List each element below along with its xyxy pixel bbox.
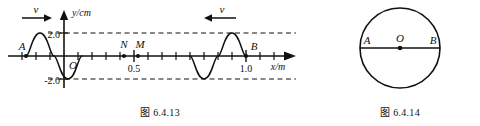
point-dot-b	[244, 54, 248, 58]
circle-center-dot	[398, 46, 403, 51]
figure-caption-wave: 图 6.4.13	[0, 104, 320, 119]
velocity-arrow-left	[22, 14, 52, 22]
circle-point-label-b: B	[430, 34, 437, 46]
origin-label: O	[69, 59, 77, 71]
point-dot-n	[122, 54, 126, 58]
circle-svg: A O B	[320, 0, 480, 104]
point-dot-m	[136, 54, 140, 58]
figure-wave-diagram: v v y/cm x/m O 2.0 -2.0 0.5 1.0 A	[0, 0, 320, 126]
point-label-b: B	[251, 40, 258, 52]
circle-point-label-o: O	[396, 32, 404, 44]
velocity-label-right: v	[220, 3, 225, 15]
x-axis-label: x/m	[270, 61, 285, 72]
circle-point-label-a: A	[363, 34, 371, 46]
y-axis-arrowhead	[60, 10, 68, 20]
y-tick-label-positive: 2.0	[48, 29, 61, 40]
point-label-a: A	[18, 40, 26, 52]
point-label-m: M	[134, 38, 145, 50]
figure-pair-container: v v y/cm x/m O 2.0 -2.0 0.5 1.0 A	[0, 0, 480, 126]
x-tick-label-one: 1.0	[240, 63, 253, 74]
figure-caption-circle: 图 6.4.14	[320, 104, 480, 119]
x-axis-arrowhead	[284, 52, 296, 61]
x-tick-label-half: 0.5	[128, 63, 141, 74]
y-axis-label: y/cm	[71, 7, 91, 18]
y-tick-label-negative: -2.0	[44, 75, 60, 86]
point-label-n: N	[119, 38, 128, 50]
velocity-label-left: v	[34, 3, 39, 15]
wave-svg: v v y/cm x/m O 2.0 -2.0 0.5 1.0 A	[0, 0, 320, 104]
point-dot-a	[24, 54, 28, 58]
velocity-arrow-right	[204, 14, 236, 22]
figure-circle-diagram: A O B 图 6.4.14	[320, 0, 480, 126]
